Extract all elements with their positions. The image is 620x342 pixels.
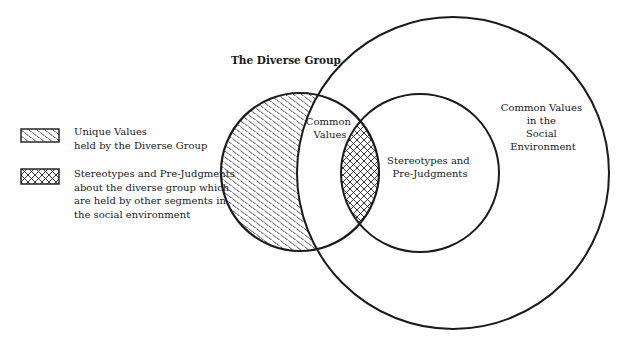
dash-hatch-swatch-icon — [21, 129, 59, 142]
legend-item-unique-values: Unique Values held by the Diverse Group — [21, 126, 207, 151]
legend: Unique Values held by the Diverse Group … — [21, 126, 238, 220]
legend-label-stereotypes: Stereotypes and Pre-Judgments about the … — [74, 168, 238, 220]
stereotypes-label: Stereotypes and Pre-Judgments — [387, 155, 473, 179]
diagram-title: The Diverse Group — [231, 54, 341, 66]
legend-item-stereotypes: Stereotypes and Pre-Judgments about the … — [21, 168, 238, 220]
venn-diagram: The Diverse Group Common Values Stereoty… — [0, 0, 620, 342]
crosshatch-swatch-icon — [21, 169, 59, 184]
legend-label-unique-values: Unique Values held by the Diverse Group — [74, 126, 207, 151]
social-environment-label: Common Values in the Social Environment — [501, 102, 585, 152]
